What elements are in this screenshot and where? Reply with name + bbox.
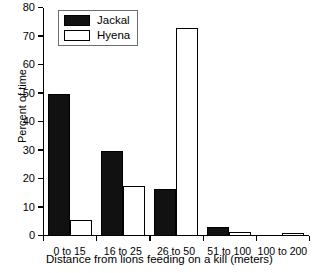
y-tick-label: 30: [23, 144, 35, 155]
y-tick-label: 70: [23, 30, 35, 41]
y-tick-label: 10: [23, 201, 35, 212]
bar-hyena-3: [229, 232, 251, 236]
legend: Jackal Hyena: [58, 10, 138, 46]
x-tick: [203, 236, 204, 241]
y-tick-label: 60: [23, 59, 35, 70]
y-tick-label: 20: [23, 173, 35, 184]
bar-jackal-3: [207, 227, 229, 236]
y-tick: 10: [38, 206, 43, 207]
legend-swatch-jackal: [64, 15, 90, 26]
bar-jackal-0: [48, 94, 70, 237]
legend-label-jackal: Jackal: [97, 15, 130, 27]
y-tick-label: 40: [23, 116, 35, 127]
legend-label-hyena: Hyena: [97, 30, 130, 42]
bar-jackal-1: [101, 151, 123, 237]
y-tick: 70: [38, 35, 43, 36]
y-tick: 30: [38, 149, 43, 150]
y-tick: 40: [38, 121, 43, 122]
bar-hyena-0: [70, 220, 92, 236]
bar-hyena-4: [282, 233, 304, 236]
x-tick: [309, 236, 310, 241]
x-axis-title: Distance from lions feeding on a kill (m…: [0, 253, 319, 265]
legend-item-hyena: Hyena: [64, 30, 130, 42]
x-tick: [96, 236, 97, 241]
x-tick: [256, 236, 257, 241]
bar-chart: Percent of time 01020304050607080 0 to 1…: [0, 0, 319, 273]
y-tick-label: 80: [23, 2, 35, 13]
x-tick: [43, 236, 44, 241]
y-tick-label: 50: [23, 87, 35, 98]
legend-item-jackal: Jackal: [64, 15, 130, 27]
bar-hyena-2: [176, 28, 198, 236]
bar-hyena-1: [123, 186, 145, 236]
y-axis-line: [43, 8, 44, 236]
y-tick: 60: [38, 64, 43, 65]
y-tick: 20: [38, 178, 43, 179]
y-tick: 80: [38, 7, 43, 8]
x-tick: [149, 236, 150, 241]
y-tick: 50: [38, 92, 43, 93]
legend-swatch-hyena: [64, 30, 90, 41]
y-tick-label: 0: [29, 230, 35, 241]
bar-jackal-2: [154, 189, 176, 236]
